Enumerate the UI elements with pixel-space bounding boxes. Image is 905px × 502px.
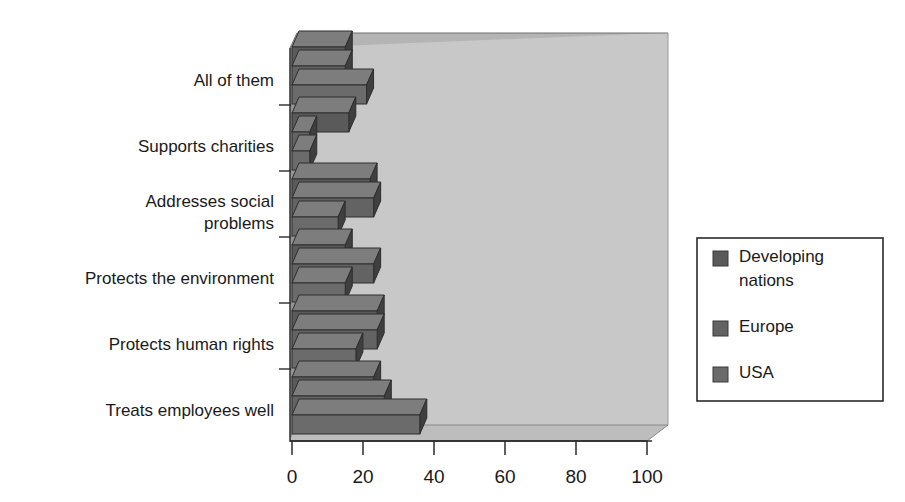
bar-top-face (292, 333, 363, 349)
bar-chart: 020406080100 All of themSupports chariti… (0, 0, 905, 502)
bar-top-face (292, 201, 345, 217)
legend-label: Developing (739, 247, 824, 266)
bar-top-face (292, 97, 356, 113)
legend-label: nations (739, 271, 794, 290)
bar-front-face (292, 415, 420, 434)
bar-top-face (292, 163, 377, 179)
x-tick-label: 60 (494, 466, 515, 487)
bar-top-face (292, 267, 352, 283)
x-tick-label: 100 (631, 466, 663, 487)
legend-label: Europe (739, 317, 794, 336)
legend-label: USA (739, 363, 775, 382)
x-tick-label: 80 (565, 466, 586, 487)
chart-container: 020406080100 All of themSupports chariti… (0, 0, 905, 502)
x-tick-label: 0 (287, 466, 298, 487)
x-tick-label: 20 (352, 466, 373, 487)
bar-top-face (292, 182, 381, 198)
legend: DevelopingnationsEuropeUSA (697, 238, 883, 401)
bar-6-3 (292, 399, 427, 434)
bar-top-face (292, 69, 374, 85)
category-label: Supports charities (138, 137, 274, 156)
bar-top-face (292, 229, 352, 245)
bar-top-face (292, 248, 381, 264)
legend-swatch (713, 321, 728, 336)
bar-top-face (292, 31, 352, 47)
x-axis-tick-labels: 020406080100 (287, 466, 663, 487)
bar-top-face (292, 380, 391, 396)
legend-swatch (713, 367, 728, 382)
category-label: problems (204, 214, 274, 233)
legend-swatch (713, 251, 728, 266)
bar-top-face (292, 295, 384, 311)
bar-top-face (292, 314, 384, 330)
x-tick-label: 40 (423, 466, 444, 487)
x-axis (290, 441, 652, 455)
x-axis-ticks (292, 441, 647, 455)
category-label: All of them (194, 71, 274, 90)
y-axis-category-labels: All of themSupports charitiesAddresses s… (85, 71, 274, 420)
category-label: Treats employees well (106, 401, 275, 420)
bar-top-face (292, 399, 427, 415)
bar-top-face (292, 50, 352, 66)
category-label: Protects the environment (85, 269, 274, 288)
bar-top-face (292, 361, 381, 377)
category-label: Protects human rights (109, 335, 274, 354)
category-label: Addresses social (145, 192, 274, 211)
